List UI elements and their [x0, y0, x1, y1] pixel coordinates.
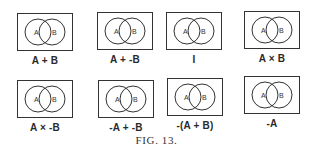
universe-rectangle: A B	[97, 12, 153, 50]
universe-rectangle: A B	[166, 12, 222, 50]
venn-circles: A B	[98, 13, 152, 49]
circle-b-label: B	[52, 29, 57, 36]
venn-circles: A B	[18, 81, 72, 117]
diagram-label: A × B	[234, 53, 310, 64]
figure-caption: FIG. 13.	[0, 134, 313, 146]
diagram-label: A + B	[7, 55, 83, 66]
circle-b-label: B	[279, 27, 284, 34]
diagram-label: I	[156, 54, 232, 65]
circle-a-label: A	[34, 29, 39, 36]
circle-a-label: A	[184, 94, 189, 101]
universe-rectangle: A B	[17, 13, 73, 51]
circle-b-label: B	[52, 96, 57, 103]
circle-a-label: A	[183, 28, 188, 35]
venn-circles: A B	[168, 79, 222, 115]
circle-b-label: B	[201, 28, 206, 35]
circle-b-label: B	[279, 92, 284, 99]
circle-a-label: A	[115, 96, 120, 103]
diagram-label: -A	[234, 118, 310, 129]
venn-circles: A B	[18, 14, 72, 50]
universe-rectangle: A B	[17, 80, 73, 118]
universe-rectangle: A B	[244, 11, 300, 49]
diagram-label: A + -B	[87, 54, 163, 65]
venn-circles: A B	[99, 81, 153, 117]
venn-circles: A B	[245, 77, 299, 113]
venn-circles: A B	[245, 12, 299, 48]
universe-rectangle: A B	[167, 78, 223, 116]
diagram-label: A × -B	[7, 122, 83, 133]
circle-a-label: A	[114, 28, 119, 35]
diagram-label: -(A + B)	[157, 120, 233, 131]
venn-circles: A B	[167, 13, 221, 49]
diagram-label: -A + -B	[88, 122, 164, 133]
circle-b-label: B	[133, 96, 138, 103]
circle-a-label: A	[34, 96, 39, 103]
universe-rectangle: A B	[98, 80, 154, 118]
universe-rectangle: A B	[244, 76, 300, 114]
circle-a-label: A	[261, 27, 266, 34]
circle-a-label: A	[261, 92, 266, 99]
circle-b-label: B	[132, 28, 137, 35]
circle-b-label: B	[202, 94, 207, 101]
